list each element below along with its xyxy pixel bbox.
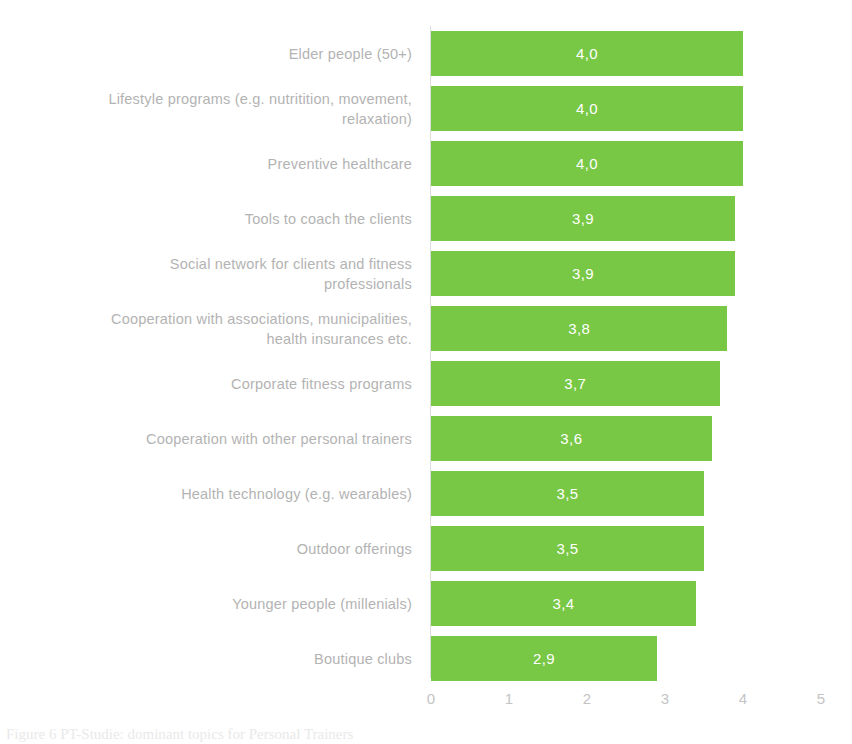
bar-track: 2,9 [431,636,821,681]
bar-track: 3,7 [431,361,821,406]
bar-track: 4,0 [431,86,821,131]
category-label: Outdoor offerings [2,539,422,559]
bar[interactable] [431,196,735,241]
bar-track: 4,0 [431,31,821,76]
bar[interactable] [431,251,735,296]
bar-chart: Elder people (50+)4,0Lifestyle programs … [0,0,852,744]
category-label: Younger people (millenials) [2,594,422,614]
bar[interactable] [431,86,743,131]
bar-track: 3,8 [431,306,821,351]
category-label: Cooperation with other personal trainers [2,429,422,449]
x-axis-tick: 4 [728,690,758,707]
bar-row: Boutique clubs2,9 [0,631,852,686]
bar-track: 3,6 [431,416,821,461]
bar[interactable] [431,471,704,516]
bar-track: 3,5 [431,526,821,571]
bar-rows: Elder people (50+)4,0Lifestyle programs … [0,26,852,686]
x-axis-tick: 1 [494,690,524,707]
bar-row: Lifestyle programs (e.g. nutritition, mo… [0,81,852,136]
bar[interactable] [431,526,704,571]
category-label: Health technology (e.g. wearables) [2,484,422,504]
plot-area: Elder people (50+)4,0Lifestyle programs … [0,26,852,678]
bar-row: Social network for clients and fitness p… [0,246,852,301]
bar-row: Preventive healthcare4,0 [0,136,852,191]
x-axis: 012345 [431,690,821,712]
bar-row: Corporate fitness programs3,7 [0,356,852,411]
category-label: Tools to coach the clients [2,209,422,229]
bar-track: 4,0 [431,141,821,186]
bar[interactable] [431,361,720,406]
bar-row: Younger people (millenials)3,4 [0,576,852,631]
x-axis-tick: 0 [416,690,446,707]
bar-row: Elder people (50+)4,0 [0,26,852,81]
bar-row: Outdoor offerings3,5 [0,521,852,576]
bar-row: Cooperation with associations, municipal… [0,301,852,356]
bar-track: 3,5 [431,471,821,516]
figure-caption: Figure 6 PT-Studie: dominant topics for … [6,726,846,744]
bar-row: Health technology (e.g. wearables)3,5 [0,466,852,521]
x-axis-tick: 5 [806,690,836,707]
x-axis-tick: 3 [650,690,680,707]
category-label: Boutique clubs [2,649,422,669]
category-label: Lifestyle programs (e.g. nutritition, mo… [2,89,422,129]
bar[interactable] [431,141,743,186]
category-label: Cooperation with associations, municipal… [2,309,422,349]
bar-track: 3,9 [431,251,821,296]
category-label: Social network for clients and fitness p… [2,254,422,294]
x-axis-tick: 2 [572,690,602,707]
category-label: Elder people (50+) [2,44,422,64]
bar-track: 3,4 [431,581,821,626]
bar[interactable] [431,581,696,626]
bar-row: Cooperation with other personal trainers… [0,411,852,466]
bar-track: 3,9 [431,196,821,241]
bar[interactable] [431,636,657,681]
category-label: Corporate fitness programs [2,374,422,394]
bar[interactable] [431,416,712,461]
bar[interactable] [431,306,727,351]
category-label: Preventive healthcare [2,154,422,174]
bar-row: Tools to coach the clients3,9 [0,191,852,246]
bar[interactable] [431,31,743,76]
